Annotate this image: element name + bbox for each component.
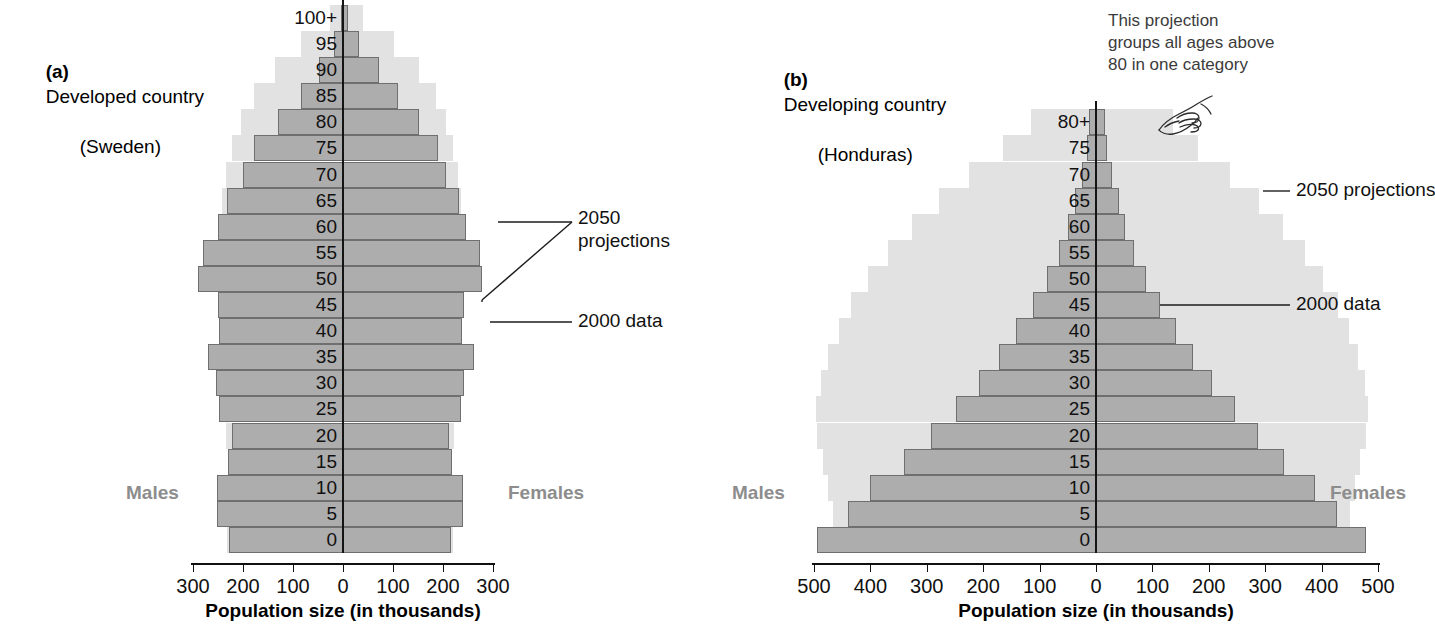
annotation-2000-data-sweden: 2000 data [578,310,663,332]
leader-lines-honduras [700,0,1416,633]
pointing-hand-icon [1155,94,1221,136]
panel-honduras: (b) Developing country (Honduras) 051015… [700,0,1416,633]
annotation-2050-projections-sweden: 2050 projections [578,206,670,252]
panel-sweden: (a) Developed country (Sweden) 051015202… [0,0,700,633]
annotation-2050-projections-honduras: 2050 projections [1296,179,1435,201]
annotation-2000-data-honduras: 2000 data [1296,293,1381,315]
annotation-callout-80plus: This projection groups all ages above 80… [1108,10,1274,76]
